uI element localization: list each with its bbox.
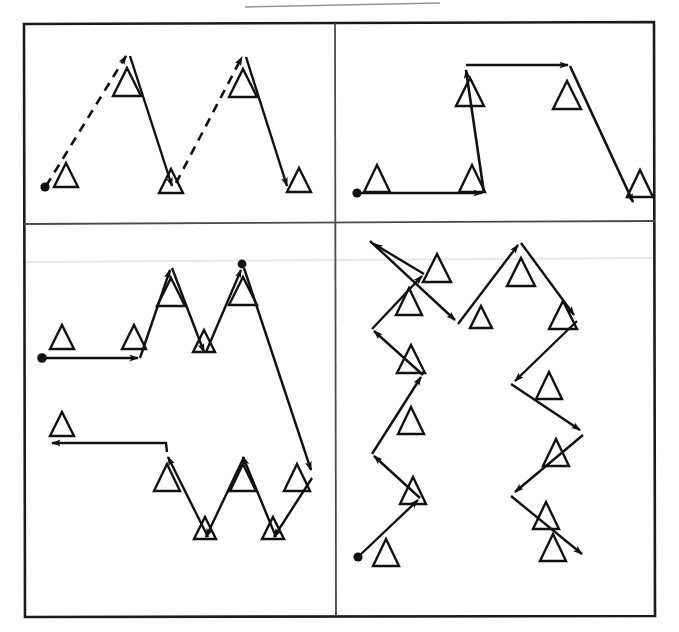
triangle-marker	[397, 345, 425, 373]
segment-bl-10	[52, 443, 167, 452]
segment-tr-4	[570, 66, 633, 202]
triangle-marker	[154, 464, 180, 491]
figure-canvas: Four-panel line-drawing figure: zigzag t…	[0, 0, 679, 632]
segment-tl-3-dashed	[176, 57, 242, 183]
top-scan-smudge	[245, 3, 440, 7]
figure-outer-frame	[24, 22, 655, 617]
segment-bl-7	[243, 457, 276, 537]
start-dot	[37, 353, 47, 363]
horizontal-divider	[24, 221, 655, 224]
vertical-divider	[335, 23, 336, 616]
triangle-marker	[50, 325, 74, 349]
panel-top-right	[352, 65, 653, 202]
four-panel-trajectory-figure	[0, 0, 679, 632]
segment-br-12	[515, 435, 583, 492]
triangle-marker	[122, 325, 146, 349]
segment-tl-2-solid	[130, 56, 172, 186]
segment-br-11	[511, 384, 580, 430]
triangle-marker	[423, 254, 451, 282]
triangle-marker	[536, 372, 562, 399]
triangle-marker	[553, 81, 581, 109]
triangle-marker	[398, 407, 424, 434]
triangle-marker	[543, 439, 569, 466]
segment-br-3	[372, 377, 421, 454]
segment-br-1	[359, 500, 418, 556]
triangle-marker	[287, 168, 311, 192]
segment-br-9	[521, 243, 574, 315]
waypoint-dot	[238, 260, 247, 269]
faint-scan-band	[24, 258, 654, 262]
panel-top-left	[40, 56, 311, 193]
segment-tl-4-solid	[246, 57, 287, 186]
segment-tl-1-dashed	[46, 56, 126, 186]
triangle-marker	[396, 288, 422, 315]
start-dot	[353, 552, 362, 561]
triangle-marker	[507, 258, 535, 286]
start-dot	[352, 188, 361, 197]
segment-br-7	[370, 241, 455, 320]
triangle-marker	[627, 170, 653, 197]
panel-bottom-right	[353, 241, 583, 566]
start-dot	[40, 182, 49, 191]
triangle-marker	[229, 69, 257, 97]
triangle-marker	[470, 306, 492, 328]
panel-bottom-left	[37, 260, 312, 539]
triangle-marker	[50, 412, 74, 436]
triangle-marker	[364, 165, 390, 192]
segment-bl-4	[206, 270, 241, 352]
segment-bl-8	[206, 457, 244, 537]
triangle-marker	[373, 539, 399, 566]
